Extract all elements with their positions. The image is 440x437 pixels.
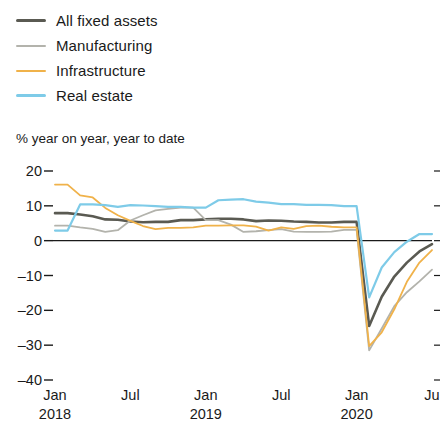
chart-figure: All fixed assets Manufacturing Infrastru… bbox=[0, 0, 440, 437]
legend-label-manufacturing: Manufacturing bbox=[56, 38, 152, 53]
chart-legend: All fixed assets Manufacturing Infrastru… bbox=[16, 8, 426, 108]
y-axis-ticks bbox=[44, 171, 53, 380]
y-tick-label: –30 bbox=[18, 337, 42, 353]
series-line bbox=[55, 199, 432, 297]
y-tick-label: –20 bbox=[18, 302, 42, 318]
x-tick-month: Ju bbox=[402, 386, 440, 405]
y-tick-label: 0 bbox=[34, 233, 42, 249]
x-tick-year: 2020 bbox=[327, 405, 387, 424]
series-lines bbox=[55, 185, 432, 351]
legend-swatch-real-estate bbox=[16, 94, 46, 97]
y-tick-label: –10 bbox=[18, 268, 42, 284]
y-tick-label: 10 bbox=[26, 198, 42, 214]
plot-area: 20100–10–20–30–40 bbox=[0, 155, 440, 390]
y-tick-label: 20 bbox=[26, 163, 42, 179]
x-tick-year: 2019 bbox=[176, 405, 236, 424]
x-tick-label-group: Jul bbox=[100, 386, 160, 405]
x-tick-month: Jan bbox=[25, 386, 85, 405]
legend-swatch-infrastructure bbox=[16, 70, 46, 72]
legend-item-manufacturing: Manufacturing bbox=[16, 33, 426, 58]
legend-item-real-estate: Real estate bbox=[16, 83, 426, 108]
x-tick-year: 2018 bbox=[25, 405, 85, 424]
x-tick-label-group: Jul bbox=[251, 386, 311, 405]
legend-label-all-fixed-assets: All fixed assets bbox=[56, 13, 158, 28]
x-tick-label-group: Jan2018 bbox=[25, 386, 85, 424]
x-tick-month: Jan bbox=[176, 386, 236, 405]
right-axis-ticks bbox=[434, 171, 440, 380]
legend-label-infrastructure: Infrastructure bbox=[56, 63, 146, 78]
y-axis-title: % year on year, year to date bbox=[16, 131, 185, 146]
legend-item-infrastructure: Infrastructure bbox=[16, 58, 426, 83]
x-tick-label-group: Ju bbox=[402, 386, 440, 405]
x-tick-month: Jul bbox=[251, 386, 311, 405]
y-axis-labels: 20100–10–20–30–40 bbox=[18, 163, 42, 388]
x-tick-label-group: Jan2019 bbox=[176, 386, 236, 424]
legend-swatch-all-fixed-assets bbox=[16, 19, 46, 23]
legend-swatch-manufacturing bbox=[16, 45, 46, 47]
series-line bbox=[55, 208, 432, 351]
x-axis-labels: Jan2018JulJan2019JulJan2020Ju bbox=[0, 386, 440, 436]
x-tick-label-group: Jan2020 bbox=[327, 386, 387, 424]
series-line bbox=[55, 185, 432, 347]
legend-item-all-fixed-assets: All fixed assets bbox=[16, 8, 426, 33]
chart-svg: 20100–10–20–30–40 bbox=[0, 155, 440, 390]
x-tick-month: Jul bbox=[100, 386, 160, 405]
legend-label-real-estate: Real estate bbox=[56, 88, 133, 103]
series-line bbox=[55, 213, 432, 326]
x-tick-month: Jan bbox=[327, 386, 387, 405]
